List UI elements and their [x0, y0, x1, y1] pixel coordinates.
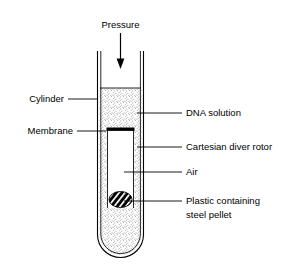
- label-air: Air: [186, 166, 198, 177]
- label-dna-solution: DNA solution: [186, 107, 241, 118]
- pressure-arrow: [117, 33, 125, 69]
- label-plastic-steel-pellet-line2: steel pellet: [186, 209, 232, 220]
- label-membrane: Membrane: [28, 125, 73, 136]
- label-cylinder: Cylinder: [29, 93, 64, 104]
- label-pressure: Pressure: [101, 19, 139, 30]
- diagram-canvas: Pressure Cylinder Membrane DNA solution …: [0, 0, 292, 273]
- pellet-body: [109, 192, 132, 208]
- plastic-steel-pellet: [109, 192, 132, 208]
- label-plastic-steel-pellet-line1: Plastic containing: [186, 195, 260, 206]
- pressure-arrow-head: [117, 59, 125, 70]
- label-cartesian-diver-rotor: Cartesian diver rotor: [186, 141, 272, 152]
- cartesian-diver-diagram: Pressure Cylinder Membrane DNA solution …: [0, 0, 292, 273]
- membrane-bar: [107, 128, 135, 131]
